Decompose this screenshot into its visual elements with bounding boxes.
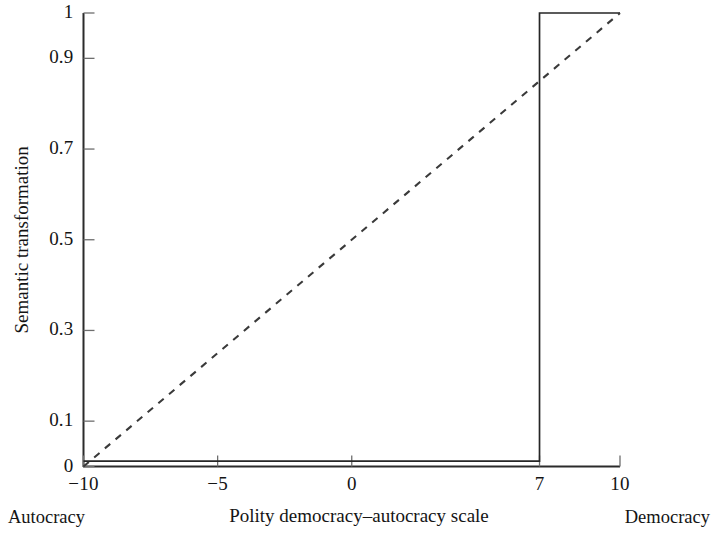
y-axis-title: Semantic transformation (11, 146, 33, 333)
autocracy-pole-label: Autocracy (8, 507, 85, 528)
y-tick-label: 0.9 (0, 46, 74, 68)
y-tick-label: 0.1 (0, 409, 74, 431)
chart-figure: 00.10.30.50.70.91 −10−50710 Semantic tra… (0, 0, 718, 536)
x-tick-label: 10 (580, 473, 660, 495)
y-axis-ticks (84, 13, 95, 467)
x-tick-label: 7 (500, 473, 580, 495)
x-tick-label: 0 (312, 473, 392, 495)
y-tick-label: 1 (0, 1, 74, 23)
democracy-pole-label: Democracy (625, 507, 710, 528)
series-step-threshold (84, 13, 621, 461)
data-series-layer (84, 13, 621, 467)
x-tick-label: −5 (178, 473, 258, 495)
x-axis-title: Polity democracy–autocracy scale (0, 505, 718, 527)
plot-area (0, 0, 718, 536)
x-tick-label: −10 (44, 473, 124, 495)
